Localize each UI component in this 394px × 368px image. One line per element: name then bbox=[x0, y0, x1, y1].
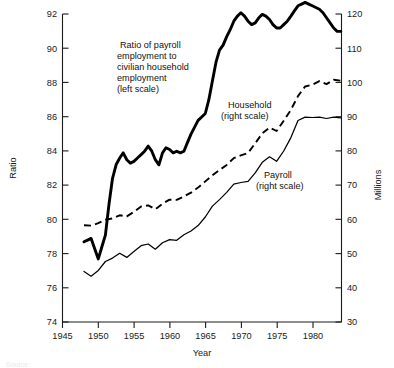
left-axis-ticks: 74 76 78 80 82 84 86 88 90 92 bbox=[47, 9, 69, 327]
footer-cutoff-text: Source: bbox=[6, 361, 30, 368]
right-ticklabel-100: 100 bbox=[347, 78, 362, 88]
x-ticklabel-1955: 1955 bbox=[124, 331, 144, 341]
annotation-ratio: Ratio of payroll employment to civilian … bbox=[117, 40, 189, 94]
x-ticklabel-1950: 1950 bbox=[88, 331, 108, 341]
annotation-payroll-line-2: (right scale) bbox=[256, 181, 304, 191]
x-ticklabel-1975: 1975 bbox=[267, 331, 287, 341]
axes-frame bbox=[63, 14, 342, 322]
left-ticklabel-90: 90 bbox=[47, 44, 57, 54]
annotation-household: Household (right scale) bbox=[221, 100, 271, 121]
left-ticklabel-80: 80 bbox=[47, 215, 57, 225]
left-ticklabel-74: 74 bbox=[47, 317, 57, 327]
x-ticklabel-1965: 1965 bbox=[195, 331, 215, 341]
right-ticklabel-80: 80 bbox=[347, 146, 357, 156]
right-ticklabel-30: 30 bbox=[347, 317, 357, 327]
x-ticklabel-1980: 1980 bbox=[303, 331, 323, 341]
annotation-household-line-1: Household bbox=[228, 100, 271, 110]
right-ticklabel-50: 50 bbox=[347, 249, 357, 259]
annotation-payroll-line-1: Payroll bbox=[264, 170, 292, 180]
right-ticklabel-110: 110 bbox=[347, 44, 362, 54]
annotation-ratio-line-4: employment bbox=[117, 73, 167, 83]
x-ticklabel-1970: 1970 bbox=[231, 331, 251, 341]
right-ticklabel-60: 60 bbox=[347, 215, 357, 225]
left-ticklabel-88: 88 bbox=[47, 78, 57, 88]
chart-canvas: 74 76 78 80 82 84 86 88 90 92 30 40 50 bbox=[0, 0, 394, 368]
left-ticklabel-86: 86 bbox=[47, 112, 57, 122]
x-axis-ticks: 1945 1950 1955 1960 1965 1970 1975 1980 bbox=[52, 322, 323, 341]
annotation-payroll: Payroll (right scale) bbox=[256, 170, 304, 191]
right-ticklabel-90: 90 bbox=[347, 112, 357, 122]
annotation-ratio-line-5: (left scale) bbox=[117, 84, 159, 94]
annotation-household-line-2: (right scale) bbox=[221, 111, 269, 121]
left-axis-title: Ratio bbox=[8, 157, 18, 178]
x-ticklabel-1945: 1945 bbox=[52, 331, 72, 341]
right-ticklabel-40: 40 bbox=[347, 283, 357, 293]
annotation-ratio-line-3: civilian household bbox=[117, 62, 189, 72]
x-axis-title: Year bbox=[193, 348, 212, 358]
left-ticklabel-76: 76 bbox=[47, 283, 57, 293]
left-ticklabel-92: 92 bbox=[47, 9, 57, 19]
right-ticklabel-120: 120 bbox=[347, 9, 362, 19]
annotation-ratio-line-2: employment to bbox=[117, 51, 177, 61]
right-axis-title: Millions bbox=[373, 169, 383, 200]
left-ticklabel-82: 82 bbox=[47, 180, 57, 190]
left-ticklabel-78: 78 bbox=[47, 249, 57, 259]
right-axis-ticks: 30 40 50 60 70 80 90 100 110 120 bbox=[336, 9, 363, 327]
annotation-ratio-line-1: Ratio of payroll bbox=[120, 40, 181, 50]
series-line-payroll bbox=[84, 117, 341, 276]
right-ticklabel-70: 70 bbox=[347, 180, 357, 190]
left-ticklabel-84: 84 bbox=[47, 146, 57, 156]
x-ticklabel-1960: 1960 bbox=[160, 331, 180, 341]
chart-figure: 74 76 78 80 82 84 86 88 90 92 30 40 50 bbox=[0, 0, 394, 368]
